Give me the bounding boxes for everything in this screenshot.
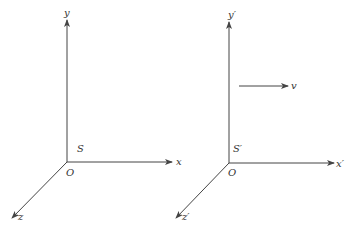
z-axis: [12, 162, 67, 218]
z-axis-label: z: [17, 211, 24, 222]
y-axis-label: y: [63, 7, 70, 18]
frame-label-s-prime: S′: [233, 143, 243, 154]
z-prime-axis-label: z′: [181, 211, 190, 222]
reference-frames-diagram: y x z S O y′ x′ z′ S′ O v: [0, 0, 352, 236]
origin-label-s: O: [66, 167, 74, 178]
velocity-label: v: [291, 80, 297, 91]
origin-label-s-prime: O: [228, 167, 236, 178]
z-prime-axis: [176, 163, 229, 218]
x-axis-label: x: [176, 156, 182, 167]
y-prime-axis-label: y′: [227, 9, 237, 20]
frame-s-prime: y′ x′ z′ S′ O v: [176, 9, 345, 222]
frame-label-s: S: [77, 143, 84, 154]
frame-s: y x z S O: [12, 7, 182, 222]
x-prime-axis-label: x′: [336, 158, 345, 169]
